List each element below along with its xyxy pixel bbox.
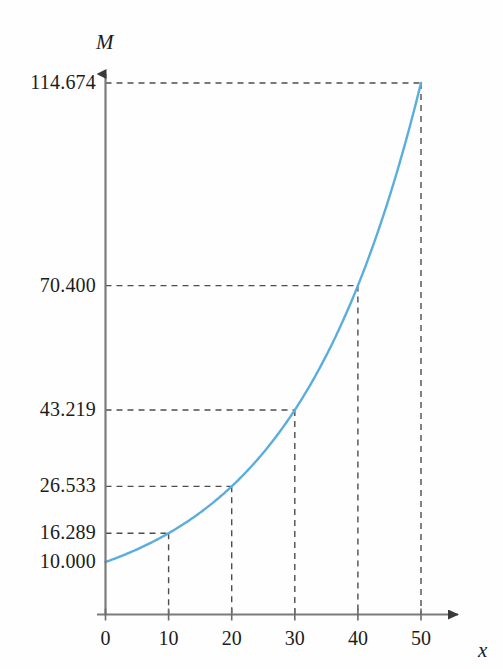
- guide-lines: [106, 83, 422, 615]
- y-tick-label: 16.289: [40, 522, 96, 542]
- y-axis-label: M: [96, 32, 114, 53]
- x-tick-label: 0: [76, 628, 136, 648]
- data-curve: [106, 83, 422, 562]
- x-tick-label: 40: [328, 628, 388, 648]
- chart-figure: M x 114.67470.40043.21926.53316.28910.00…: [0, 0, 503, 669]
- y-tick-label: 10.000: [40, 551, 96, 571]
- y-tick-label: 26.533: [40, 475, 96, 495]
- y-tick-label: 70.400: [40, 275, 96, 295]
- y-tick-label: 43.219: [40, 399, 96, 419]
- x-tick-label: 10: [139, 628, 199, 648]
- y-tick-label: 114.674: [30, 72, 96, 92]
- x-tick-label: 50: [391, 628, 451, 648]
- x-tick-label: 30: [265, 628, 325, 648]
- x-tick-label: 20: [202, 628, 262, 648]
- x-axis-label: x: [478, 640, 487, 661]
